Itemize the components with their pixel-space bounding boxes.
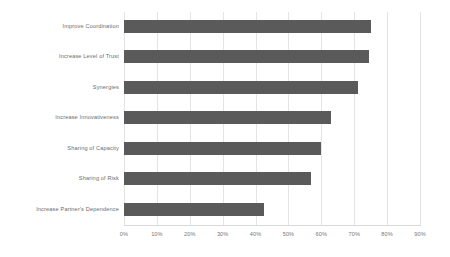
x-tick-label: 0%: [120, 231, 128, 237]
x-tick-label: 50%: [283, 231, 295, 237]
bar-row: [124, 164, 420, 194]
bar-row: [124, 103, 420, 133]
bar-row: [124, 195, 420, 225]
bar-row: [124, 73, 420, 103]
category-label: Increase Innovativeness: [55, 111, 119, 124]
x-tick-label: 20%: [184, 231, 196, 237]
x-tick-label: 70%: [348, 231, 360, 237]
category-label: Improve Coordination: [63, 20, 119, 33]
category-label: Sharing of Risk: [79, 172, 119, 185]
category-label: Synergies: [93, 81, 119, 94]
category-label: Increase Partner's Dependence: [36, 203, 119, 216]
x-tick-label: 60%: [316, 231, 328, 237]
category-label: Sharing of Capacity: [67, 142, 119, 155]
x-tick-label: 90%: [414, 231, 426, 237]
category-label: Increase Level of Trust: [59, 50, 119, 63]
bar-row: [124, 134, 420, 164]
bar: [124, 203, 264, 216]
bar: [124, 20, 371, 33]
bar-row: [124, 42, 420, 72]
x-tick-label: 30%: [217, 231, 229, 237]
x-tick-label: 80%: [381, 231, 393, 237]
x-tick-label: 40%: [250, 231, 262, 237]
bar-chart: Improve CoordinationIncrease Level of Tr…: [0, 0, 450, 257]
bar: [124, 142, 321, 155]
bar: [124, 50, 369, 63]
bar: [124, 81, 358, 94]
category-axis-labels: Improve CoordinationIncrease Level of Tr…: [0, 12, 119, 225]
bar: [124, 111, 331, 124]
bar-row: [124, 12, 420, 42]
x-tick-label: 10%: [151, 231, 163, 237]
x-axis-tick-labels: 0%10%20%30%40%50%60%70%80%90%: [0, 231, 450, 243]
x-axis-line: [124, 225, 421, 226]
gridline-90: [420, 12, 421, 225]
bar: [124, 172, 311, 185]
plot-area: [124, 12, 420, 225]
